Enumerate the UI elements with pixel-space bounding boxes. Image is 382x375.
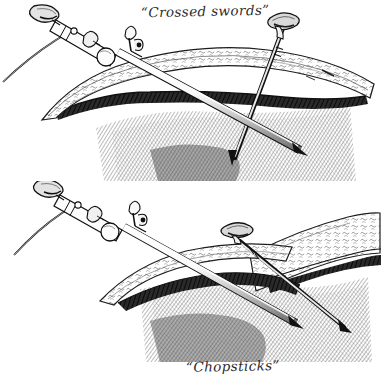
panel-chopsticks: “Chopsticks” — [0, 181, 382, 362]
stopcock-valve — [125, 26, 143, 57]
chopsticks-artwork — [0, 181, 382, 362]
crossed-swords-artwork — [0, 0, 382, 181]
peritoneal-cavity-top — [96, 104, 356, 181]
caption-crossed-swords: “Crossed swords” — [141, 2, 270, 21]
panel-crossed-swords: “Crossed swords” — [0, 0, 382, 181]
caption-chopsticks: “Chopsticks” — [186, 357, 280, 375]
